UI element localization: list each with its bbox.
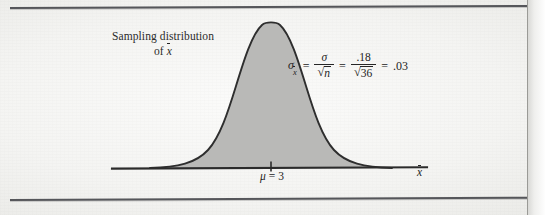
fraction-1-numerator: σ (318, 51, 330, 64)
fraction-point18-over-sqrt-36: .18 √36 (351, 51, 376, 80)
sampling-distribution-caption: Sampling distribution of x (103, 29, 223, 58)
caption-line-1: Sampling distribution (112, 30, 214, 42)
fraction-2-numerator: .18 (353, 51, 373, 64)
normal-curve-plot (0, 0, 545, 215)
caption-line-2: of x (103, 43, 223, 58)
fraction-1-denominator: √n (314, 64, 334, 80)
equals-sign-2: = (338, 59, 347, 74)
radical-sign-1: √ (317, 66, 324, 79)
sigma-xbar-symbol: σx (288, 58, 298, 74)
mu-symbol: μ (260, 170, 266, 182)
fraction-sigma-over-sqrt-n: σ √n (314, 51, 334, 80)
radicand-36: 36 (360, 66, 373, 80)
caption-of-word: of (154, 45, 164, 57)
mean-axis-label: μ = 3 (236, 170, 308, 182)
caption-xbar-symbol: x (167, 43, 172, 58)
xbar-axis-symbol: x (417, 165, 422, 178)
equals-sign-1: = (302, 59, 311, 74)
figure-container: Sampling distribution of x σx = σ √n = .… (0, 0, 545, 215)
xbar-subscript: x (293, 66, 297, 77)
standard-error-value: .03 (393, 59, 408, 74)
mu-equals-sign: = (269, 170, 276, 182)
page-edge (527, 0, 545, 215)
horizontal-axis (112, 167, 427, 168)
mu-value: 3 (278, 170, 284, 182)
equals-sign-3: = (380, 59, 389, 74)
xbar-axis-label: x (417, 165, 422, 178)
fraction-2-denominator: √36 (351, 64, 376, 80)
sqrt-n-radical: √n (317, 66, 331, 80)
radicand-n: n (324, 66, 331, 80)
sqrt-36-radical: √36 (354, 66, 373, 80)
radical-sign-2: √ (354, 66, 361, 79)
standard-error-formula: σx = σ √n = .18 √36 = .03 (288, 52, 408, 81)
